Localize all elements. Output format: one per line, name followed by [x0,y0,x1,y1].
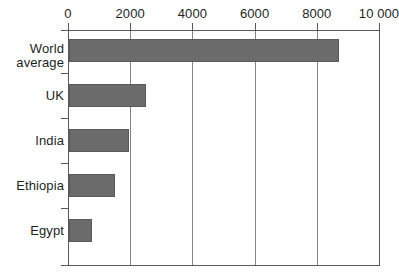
category-label: World average [16,42,64,70]
y-axis-tick [61,73,68,74]
bar [69,174,115,197]
x-axis-tick [192,23,193,31]
top-axis-line [61,30,380,31]
x-axis-tick [68,23,69,31]
x-axis-tick-labels: 0 2000 4000 6000 8000 10 000 [0,6,399,24]
y-axis-tick [61,208,68,209]
x-axis-tick [255,23,256,31]
x-tick-label-8000: 8000 [302,6,331,22]
bar-chart: 0 2000 4000 6000 8000 10 000 World avera… [0,0,399,275]
x-axis-tick [317,23,318,31]
x-tick-label-4000: 4000 [178,6,207,22]
y-axis-tick [61,163,68,164]
right-axis-line [379,30,380,266]
gridline [255,31,256,265]
gridline [317,31,318,265]
category-label: Ethiopia [16,179,64,193]
x-tick-label-10000: 10 000 [359,6,399,22]
category-label: India [35,134,64,148]
y-axis-tick [61,118,68,119]
bottom-axis-line [61,265,380,266]
gridline [130,31,131,265]
x-tick-label-0: 0 [64,6,71,22]
bar [69,129,129,152]
category-label: Egypt [30,224,64,238]
bar [69,39,339,62]
x-axis-tick [130,23,131,31]
category-label: UK [46,89,64,103]
x-tick-label-6000: 6000 [240,6,269,22]
x-axis-tick [379,23,380,31]
bar [69,84,146,107]
x-tick-label-2000: 2000 [116,6,145,22]
bar [69,219,92,242]
gridline [192,31,193,265]
